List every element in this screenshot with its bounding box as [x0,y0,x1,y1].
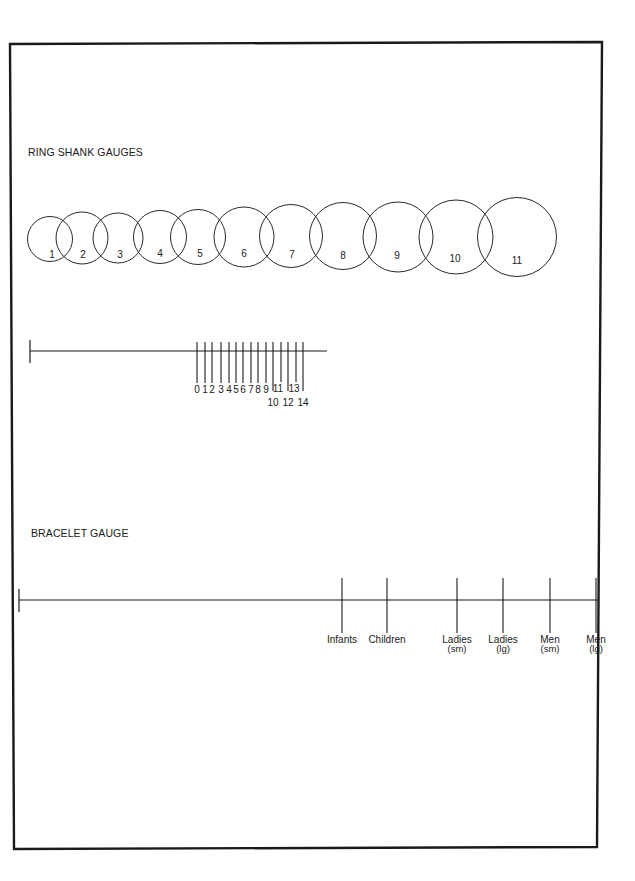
tick-label: 0 [194,384,200,395]
ruler-tick-8: 8 [255,342,261,395]
ring-size-label: 2 [80,249,86,260]
bracelet-tick-ladies-lg: Ladies(lg) [488,578,517,654]
ring-circle [363,202,433,272]
ring-size-label: 4 [157,248,163,259]
ruler-tick-13: 13 [288,342,300,394]
tick-label: 12 [282,397,294,408]
ring-size-label: 3 [117,249,123,260]
ring-size-ruler: 01234567891011121314 [30,340,327,408]
ring-size-label: 8 [340,250,346,261]
ring-size-label: 7 [289,249,295,260]
bracelet-tick-infants: Infants [327,578,357,645]
ruler-tick-5: 5 [233,342,239,395]
bracelet-size-label: Children [368,634,405,645]
ring-gauge-10: 10 [419,200,493,274]
ruler-tick-10: 10 [267,342,279,408]
tick-label: 6 [240,384,246,395]
tick-label: 4 [226,384,232,395]
ring-gauge-4: 4 [134,211,187,264]
tick-label: 9 [263,384,269,395]
bracelet-gauge-title: BRACELET GAUGE [31,527,128,539]
ring-size-label: 1 [49,249,55,260]
ruler-tick-2: 2 [209,342,215,395]
tick-label: 5 [233,384,239,395]
ruler-tick-1: 1 [202,342,208,395]
ring-gauge-3: 3 [93,213,143,263]
bracelet-tick-ladies-sm: Ladies(sm) [442,578,471,654]
tick-label: 7 [248,384,254,395]
tick-label: 14 [297,397,309,408]
tick-label: 13 [288,383,300,394]
ring-size-label: 6 [241,248,247,259]
bracelet-size-sublabel: (lg) [496,643,510,654]
ring-gauge-9: 9 [363,202,433,272]
ring-gauge-7: 7 [260,205,323,268]
tick-label: 1 [202,384,208,395]
ring-gauge-5: 5 [171,210,226,265]
ring-shank-section: RING SHANK GAUGES 1234567891011 01234567… [28,146,557,408]
bracelet-size-ruler: InfantsChildrenLadies(sm)Ladies(lg)Men(s… [19,578,606,654]
ring-size-label: 11 [512,255,523,266]
ruler-tick-11: 11 [273,342,284,394]
ruler-tick-4: 4 [226,342,232,395]
ring-shank-title: RING SHANK GAUGES [28,146,143,158]
page-frame [10,42,602,849]
bracelet-size-sublabel: (lg) [589,643,603,654]
ring-gauge-11: 11 [478,198,557,277]
bracelet-section: BRACELET GAUGE InfantsChildrenLadies(sm)… [19,527,606,654]
ring-gauge-1: 1 [28,217,73,262]
ring-gauge-6: 6 [214,207,274,267]
bracelet-size-label: Infants [327,634,357,645]
ruler-tick-3: 3 [218,342,224,395]
ruler-tick-6: 6 [240,342,246,395]
ring-circles: 1234567891011 [28,198,557,277]
ruler-tick-14: 14 [297,342,309,408]
ruler-tick-12: 12 [282,342,294,408]
ring-size-label: 9 [394,250,400,261]
bracelet-tick-men-sm: Men(sm) [540,578,559,654]
tick-label: 8 [255,384,261,395]
ruler-tick-7: 7 [248,342,254,395]
ruler-tick-9: 9 [263,342,269,395]
ring-size-label: 10 [449,253,461,264]
ring-gauge-8: 8 [310,203,377,270]
ruler-tick-0: 0 [194,342,200,395]
tick-label: 10 [267,397,279,408]
tick-label: 2 [209,384,215,395]
tick-label: 11 [273,383,284,394]
ring-size-label: 5 [197,248,203,259]
gauge-sheet: RING SHANK GAUGES 1234567891011 01234567… [0,0,635,881]
tick-label: 3 [218,384,224,395]
bracelet-tick-men-lg: Men(lg) [586,578,605,654]
bracelet-size-sublabel: (sm) [448,643,467,654]
bracelet-tick-children: Children [368,578,405,645]
bracelet-size-sublabel: (sm) [541,643,560,654]
